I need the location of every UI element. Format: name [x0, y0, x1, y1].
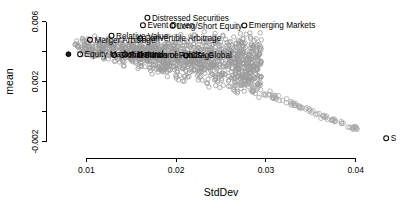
tail-points-layer — [232, 79, 359, 131]
chart-canvas: 0.0060.002-0.0020.010.020.030.04StdDevme… — [0, 0, 416, 213]
labeled-point-marker — [384, 136, 389, 141]
scatter-plot: 0.0060.002-0.0020.010.020.030.04StdDevme… — [0, 0, 416, 213]
y-tick-label: 0.006 — [30, 11, 40, 33]
labeled-point-marker — [145, 15, 150, 20]
x-tick-label: 0.04 — [347, 165, 364, 175]
x-tick-label: 0.03 — [258, 165, 275, 175]
cloud-point — [258, 31, 262, 35]
labeled-point-marker — [140, 23, 145, 28]
x-tick-label: 0.02 — [168, 165, 185, 175]
cloud-point — [238, 31, 242, 35]
cloud-point — [200, 78, 204, 82]
x-tick-label: 0.01 — [78, 165, 95, 175]
cloud-point — [165, 74, 169, 78]
y-axis-title: mean — [3, 68, 15, 94]
y-tick-label: -0.002 — [30, 129, 40, 153]
point-label: Emerging Markets — [249, 21, 315, 30]
labeled-point-marker — [242, 23, 247, 28]
cloud-point — [259, 38, 263, 42]
point-label: Convertible Arbitrage — [145, 34, 222, 43]
cloud-point — [244, 32, 248, 36]
point-label: CTA Global — [191, 51, 232, 60]
point-label: Long/Short Equity — [177, 22, 243, 31]
y-tick-label: 0.002 — [30, 71, 40, 93]
x-axis-title: StdDev — [204, 186, 239, 198]
point-label: S — [391, 134, 397, 143]
point-label: Global Macro — [119, 51, 168, 60]
cloud-point — [232, 35, 236, 39]
edge-point — [66, 52, 71, 57]
cloud-point — [257, 95, 261, 99]
point-label: Merger Arbitrage — [94, 36, 155, 45]
cloud-point — [218, 85, 222, 89]
